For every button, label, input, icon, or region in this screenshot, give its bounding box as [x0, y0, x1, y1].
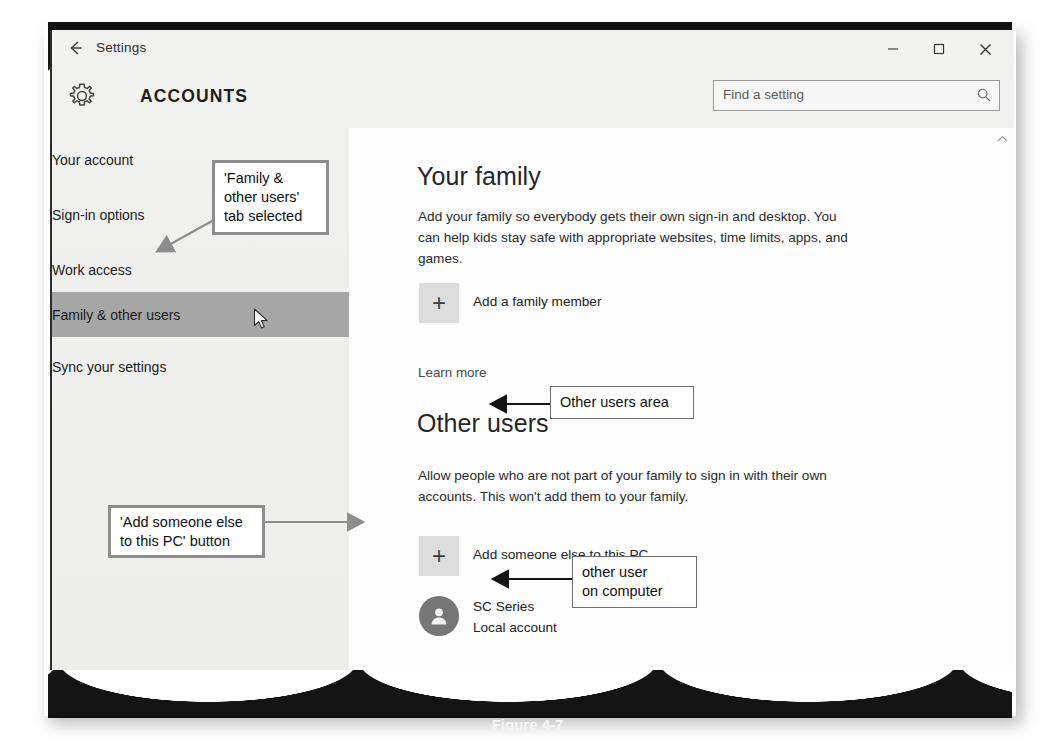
search-icon: [976, 87, 992, 103]
add-someone-else-callout: 'Add someone else to this PC' button: [108, 505, 265, 558]
back-arrow-icon[interactable]: [64, 37, 88, 61]
sidebar-item-label: Work access: [52, 262, 132, 278]
sidebar-item-sync-your-settings[interactable]: Sync your settings: [52, 345, 349, 389]
plus-icon: +: [432, 544, 446, 568]
callout-line-2: other users': [224, 188, 317, 207]
person-icon: [426, 603, 452, 629]
add-someone-else-callout-arrow: [262, 515, 372, 529]
sidebar-item-label: Sign-in options: [52, 207, 145, 223]
page-title: ACCOUNTS: [140, 86, 248, 107]
sidebar-item-family-and-other-users[interactable]: Family & other users: [52, 292, 349, 337]
user-name: SC Series: [473, 599, 534, 614]
other-users-area-arrow: [482, 397, 554, 411]
search-placeholder: Find a setting: [723, 87, 804, 102]
close-button[interactable]: [962, 34, 1008, 64]
callout-line-1: 'Add someone else: [120, 513, 253, 532]
your-family-heading: Your family: [417, 162, 541, 191]
other-users-heading: Other users: [417, 409, 549, 438]
title-bar: Settings: [52, 30, 1014, 68]
callout-line-1: 'Family &: [224, 169, 317, 188]
window-title: Settings: [96, 40, 146, 55]
sidebar-item-label: Your account: [52, 152, 133, 168]
other-user-on-computer-callout: other user on computer: [572, 556, 697, 608]
other-user-on-computer-arrow: [484, 572, 576, 586]
your-family-description: Add your family so everybody gets their …: [418, 206, 848, 269]
add-someone-else-to-this-pc-button[interactable]: +: [419, 536, 459, 576]
maximize-button[interactable]: [916, 34, 962, 64]
add-family-member-label: Add a family member: [473, 294, 601, 309]
other-users-area-callout: Other users area: [550, 386, 694, 419]
learn-more-link[interactable]: Learn more: [418, 365, 486, 380]
sidebar-item-label: Family & other users: [52, 307, 180, 323]
avatar: [419, 596, 459, 636]
search-input[interactable]: Find a setting: [713, 80, 1000, 111]
gear-icon: [66, 80, 100, 114]
other-users-description: Allow people who are not part of your fa…: [418, 465, 848, 507]
callout-line-2: on computer: [582, 582, 687, 601]
callout-line-3: tab selected: [224, 207, 317, 226]
user-account-type: Local account: [473, 620, 557, 635]
callout-line-1: Other users area: [560, 393, 684, 412]
sidebar-item-label: Sync your settings: [52, 359, 166, 375]
mouse-cursor: [253, 308, 271, 332]
callout-line-1: other user: [582, 563, 687, 582]
plus-icon: +: [432, 291, 446, 315]
add-family-member-button[interactable]: +: [419, 283, 459, 323]
figure-caption: Figure 4-7: [0, 716, 1055, 733]
family-tab-callout: 'Family & other users' tab selected: [212, 160, 329, 235]
chevron-up-icon[interactable]: [997, 134, 1008, 145]
callout-line-2: to this PC' button: [120, 532, 253, 551]
page-header: ACCOUNTS Find a setting: [52, 68, 1014, 128]
window-controls: [870, 30, 1008, 68]
scanned-page: Settings: [0, 0, 1055, 742]
minimize-button[interactable]: [870, 34, 916, 64]
